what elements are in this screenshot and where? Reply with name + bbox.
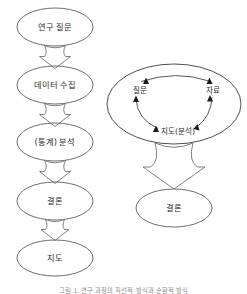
arrow-conclusion-to-map (41, 220, 69, 241)
cycle-arc-data-to-map (196, 98, 212, 128)
down-block-arrow-icon (40, 161, 71, 184)
node-statistical-analysis[interactable]: (통계) 분석 (17, 123, 93, 161)
down-block-arrow-icon (143, 143, 205, 189)
cycle-node-map-analysis[interactable]: 지도(분석) (161, 126, 195, 136)
cycle-node-question[interactable]: 질문 (133, 86, 147, 95)
node-label: 결론 (47, 196, 63, 206)
linear-flow-group: 연구 질문 데이터 수집 (통계) 분석 (17, 8, 93, 276)
cycle-arrowhead-icon (133, 96, 139, 103)
cycle-arc-question-to-data (141, 76, 209, 82)
arrow-cycle-to-conclusion (143, 143, 205, 189)
arrow-question-to-data (40, 46, 71, 69)
node-label: (통계) 분석 (35, 137, 76, 147)
figure-caption: 그림 1. 연구 과정의 직선적 방식과 순환적 방식 (0, 286, 247, 294)
node-conclusion[interactable]: 결론 (17, 182, 93, 220)
cycle-node-label: 질문 (133, 86, 147, 95)
cycle-arc-map-to-question (136, 99, 158, 129)
cycle-arcs-group (133, 76, 213, 132)
cyclical-flow-group: 질문 자료 지도(분석) 결론 (107, 64, 241, 227)
node-cycle-conclusion[interactable]: 결론 (136, 189, 212, 227)
node-label: 지도 (47, 253, 63, 263)
node-map[interactable]: 지도 (17, 240, 93, 276)
down-block-arrow-icon (41, 220, 69, 241)
node-label: 결론 (166, 203, 182, 213)
node-label: 연구 질문 (38, 22, 73, 32)
cycle-node-label: 지도(분석) (161, 126, 195, 136)
cycle-node-data[interactable]: 자료 (206, 86, 220, 95)
node-research-question[interactable]: 연구 질문 (17, 8, 93, 46)
research-process-diagram: 연구 질문 데이터 수집 (통계) 분석 (0, 0, 247, 294)
diagram-page: 연구 질문 데이터 수집 (통계) 분석 (0, 0, 247, 294)
node-data-collection[interactable]: 데이터 수집 (17, 66, 93, 104)
node-label: 데이터 수집 (34, 80, 77, 90)
cycle-node-label: 자료 (206, 86, 220, 95)
arrow-analysis-to-conclusion (40, 161, 71, 184)
down-block-arrow-icon (40, 46, 71, 69)
